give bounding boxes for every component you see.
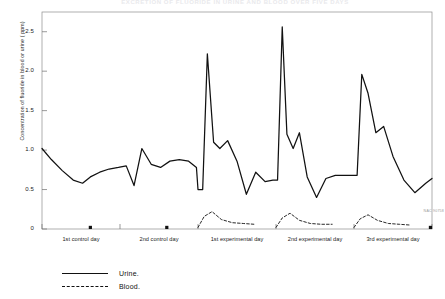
- legend-item-urine: Urine.: [62, 270, 139, 277]
- blood-sample-markers: [89, 226, 432, 229]
- blood-sample-marker-2: [429, 226, 432, 229]
- x-tick-label-4: 3rd experimental day: [351, 236, 435, 242]
- legend-key-dashed-line: [62, 286, 108, 287]
- series-line-blood-0: [198, 212, 254, 228]
- legend-label-blood: Blood.: [119, 283, 140, 290]
- y-tick-label-0: 0: [12, 225, 34, 231]
- x-tick-label-2: 1st experimental day: [195, 236, 279, 242]
- corner-reference-code: NAC 90758: [424, 209, 444, 213]
- blood-sample-marker-0: [89, 226, 92, 229]
- series-line-urine: [42, 27, 432, 197]
- legend-key-solid-line: [62, 273, 108, 274]
- figure-container: EXCRETION OF FLUORIDE IN URINE AND BLOOD…: [0, 0, 445, 299]
- y-tick-label-1: 0.5: [12, 186, 34, 192]
- series-line-blood-2: [354, 215, 410, 228]
- blood-sample-marker-1: [165, 226, 168, 229]
- legend-label-urine: Urine.: [119, 270, 139, 277]
- x-tick-label-3: 2nd experimental day: [273, 236, 357, 242]
- data-series-layer: [42, 27, 432, 227]
- x-axis-tick-marks: [42, 224, 432, 229]
- y-tick-label-4: 2.0: [12, 67, 34, 73]
- x-tick-label-0: 1st control day: [39, 236, 123, 242]
- y-axis-label: Concentration of fluoride in blood or ur…: [19, 0, 25, 164]
- y-tick-label-3: 1.5: [12, 107, 34, 113]
- series-line-blood-1: [276, 213, 332, 227]
- x-tick-label-1: 2nd control day: [117, 236, 201, 242]
- y-axis-tick-marks: [42, 32, 47, 229]
- chart-plot-area: [0, 0, 445, 299]
- y-tick-label-2: 1.0: [12, 146, 34, 152]
- legend-item-blood: Blood.: [62, 283, 140, 290]
- y-tick-label-5: 2.5: [12, 28, 34, 34]
